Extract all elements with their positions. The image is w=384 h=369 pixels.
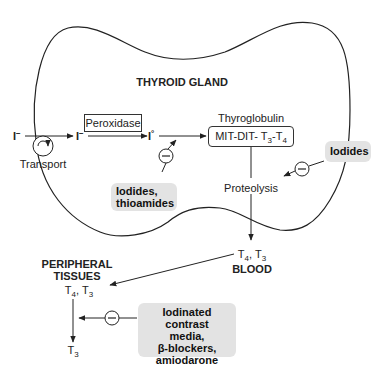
peripheral-label-line2: TISSUES bbox=[53, 270, 100, 282]
transport-label: Transport bbox=[20, 158, 67, 170]
peripheral-t3-product: T3 bbox=[67, 344, 78, 356]
transport-pump-icon bbox=[33, 136, 53, 156]
iodine: I° bbox=[148, 130, 154, 142]
drug-label: media, bbox=[140, 330, 234, 342]
drug-box-iodides-thioamides: Iodides, thioamides bbox=[111, 183, 177, 211]
drug-box-iodides: Iodides bbox=[325, 141, 371, 162]
drug-label: Iodinated contrast bbox=[140, 306, 234, 330]
peroxidase-box: Peroxidase bbox=[84, 114, 142, 132]
iodide-outside: I− bbox=[13, 130, 21, 142]
blood-hormones: T4, T3 bbox=[238, 248, 266, 260]
thyroglobulin-box: MIT-DIT- T3-T4 bbox=[208, 126, 294, 147]
thyroid-pathway-diagram: THYROID GLAND I− Transport I− Peroxidase… bbox=[0, 0, 384, 369]
drug-label: Iodides, bbox=[116, 185, 172, 197]
proteolysis-label: Proteolysis bbox=[224, 182, 278, 194]
gland-title: THYROID GLAND bbox=[136, 76, 228, 88]
thyroglobulin-label: Thyroglobulin bbox=[218, 112, 284, 124]
blood-label: BLOOD bbox=[232, 263, 272, 275]
drug-box-contrast-betablockers-amiodarone: Iodinated contrast media, β-blockers, am… bbox=[138, 303, 236, 357]
peripheral-label-line1: PERIPHERAL bbox=[42, 258, 113, 270]
drug-label: amiodarone bbox=[140, 354, 234, 366]
drug-label: β-blockers, bbox=[140, 342, 234, 354]
peripheral-hormones: T4, T3 bbox=[65, 284, 93, 296]
drug-label: thioamides bbox=[116, 197, 172, 209]
drug-label: Iodides bbox=[330, 145, 366, 157]
circulation-arrow bbox=[110, 254, 234, 285]
iodide-inside: I− bbox=[76, 130, 84, 142]
